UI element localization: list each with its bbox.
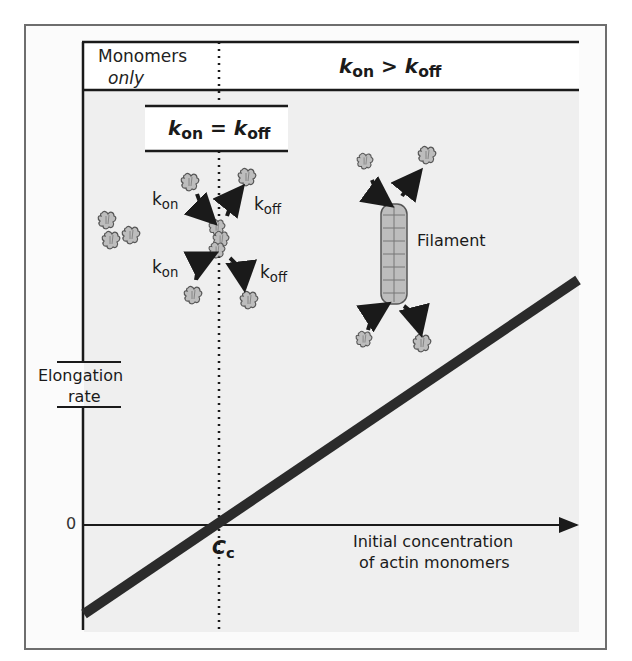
monomer-icon bbox=[418, 146, 436, 163]
monomers-only-label-line2: only bbox=[108, 70, 144, 87]
koff-top-label: koff bbox=[254, 196, 281, 213]
c-symbol: C bbox=[212, 536, 226, 558]
filament-icon bbox=[381, 204, 407, 304]
koff-bottom-label: koff bbox=[260, 264, 287, 281]
kon-bottom-label: kon bbox=[152, 259, 178, 276]
kon-equals-koff-label: kon = koff bbox=[168, 118, 271, 139]
monomer-icon bbox=[181, 173, 199, 190]
k-subscript: off bbox=[270, 270, 287, 285]
y-zero-tick-label: 0 bbox=[66, 516, 76, 532]
diagram-canvas bbox=[0, 0, 632, 661]
k-subscript: on bbox=[162, 197, 179, 212]
c-subscript: c bbox=[226, 544, 235, 561]
k-subscript: off bbox=[264, 202, 281, 217]
kon-top-label: kon bbox=[152, 191, 178, 208]
k-symbol: k bbox=[254, 194, 264, 214]
monomer-icon bbox=[413, 334, 431, 351]
x-axis-label-line2: of actin monomers bbox=[359, 555, 510, 571]
y-axis-label-line1: Elongation bbox=[38, 368, 123, 384]
monomer-icon bbox=[238, 168, 256, 185]
monomer-icon bbox=[356, 331, 372, 347]
k-subscript: on bbox=[181, 125, 203, 143]
monomer-icon bbox=[240, 291, 258, 308]
k-symbol: k bbox=[234, 116, 247, 140]
x-axis-label-line1: Initial concentration bbox=[353, 534, 513, 550]
operator: > bbox=[381, 54, 398, 78]
critical-concentration-label: Cc bbox=[212, 538, 235, 557]
k-subscript: on bbox=[352, 63, 374, 81]
k-symbol: k bbox=[260, 262, 270, 282]
k-symbol: k bbox=[152, 189, 162, 209]
monomer-icon bbox=[184, 286, 202, 303]
k-symbol: k bbox=[152, 257, 162, 277]
k-subscript: on bbox=[162, 265, 179, 280]
y-axis-label-line2: rate bbox=[68, 389, 101, 405]
filament-label: Filament bbox=[417, 233, 486, 249]
monomer-icon bbox=[102, 231, 120, 248]
monomer-icon bbox=[98, 211, 116, 228]
kon-greater-koff-label: kon > koff bbox=[339, 56, 442, 77]
monomer-icon bbox=[122, 226, 140, 243]
monomer-icon bbox=[357, 153, 373, 169]
k-symbol: k bbox=[405, 54, 418, 78]
k-symbol: k bbox=[339, 54, 352, 78]
monomers-only-label-line1: Monomers bbox=[98, 48, 187, 65]
k-subscript: off bbox=[418, 63, 441, 81]
operator: = bbox=[210, 116, 227, 140]
k-symbol: k bbox=[168, 116, 181, 140]
k-subscript: off bbox=[247, 125, 270, 143]
